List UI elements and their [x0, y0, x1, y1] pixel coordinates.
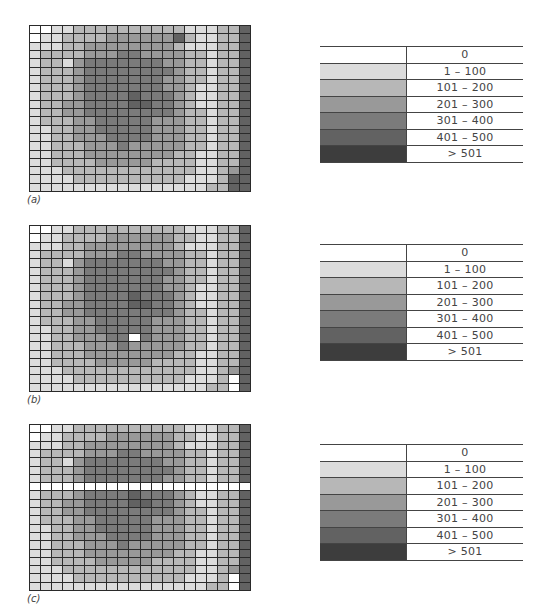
grid-cell	[96, 51, 106, 58]
grid-cell	[85, 467, 95, 474]
grid-cell	[229, 243, 239, 250]
grid-cell	[229, 541, 239, 548]
grid-cell	[141, 243, 151, 250]
grid-cell	[30, 516, 40, 523]
grid-cell	[107, 59, 117, 66]
grid-cell	[185, 351, 195, 358]
grid-cell	[196, 458, 206, 465]
grid-cell	[229, 92, 239, 99]
grid-cell	[207, 301, 217, 308]
grid-cell	[163, 292, 173, 299]
grid-cell	[74, 375, 84, 382]
grid-cell	[174, 51, 184, 58]
grid-cell	[152, 525, 162, 532]
grid-cell	[52, 76, 62, 83]
grid-cell	[185, 550, 195, 557]
grid-cell	[74, 384, 84, 391]
grid-cell	[52, 433, 62, 440]
grid-cell	[129, 533, 139, 540]
grid-cell	[74, 334, 84, 341]
grid-cell	[240, 251, 250, 258]
grid-cell	[96, 342, 106, 349]
grid-cell	[207, 583, 217, 590]
legend-label: 1 – 100	[407, 63, 524, 80]
grid-cell	[174, 243, 184, 250]
grid-cell	[174, 259, 184, 266]
grid-cell	[41, 375, 51, 382]
grid-cell	[196, 351, 206, 358]
grid-cell	[63, 251, 73, 258]
grid-cell	[229, 475, 239, 482]
grid-cell	[52, 375, 62, 382]
grid-cell	[85, 558, 95, 565]
grid-cell	[185, 334, 195, 341]
grid-cell	[207, 351, 217, 358]
grid-cell	[152, 134, 162, 141]
grid-cell	[185, 525, 195, 532]
grid-cell	[41, 184, 51, 191]
grid-cell	[152, 425, 162, 432]
grid-cell	[229, 317, 239, 324]
grid-cell	[163, 167, 173, 174]
grid-cell	[240, 342, 250, 349]
grid-cell	[129, 184, 139, 191]
grid-cell	[63, 234, 73, 241]
grid-cell	[30, 226, 40, 233]
grid-cell	[218, 359, 228, 366]
grid-cell	[240, 142, 250, 149]
grid-cell	[240, 566, 250, 573]
grid-cell	[163, 483, 173, 490]
grid-cell	[174, 309, 184, 316]
grid-cell	[41, 268, 51, 275]
grid-cell	[41, 92, 51, 99]
grid-cell	[163, 26, 173, 33]
grid-cell	[63, 458, 73, 465]
grid-cell	[129, 450, 139, 457]
grid-cell	[196, 550, 206, 557]
grid-cell	[30, 276, 40, 283]
grid-cell	[41, 284, 51, 291]
grid-cell	[229, 167, 239, 174]
grid-cell	[185, 167, 195, 174]
grid-cell	[218, 342, 228, 349]
heatmap-grid-a	[29, 25, 251, 192]
grid-cell	[163, 334, 173, 341]
grid-cell	[107, 442, 117, 449]
grid-cell	[96, 425, 106, 432]
legend-row: 201 – 300	[320, 294, 523, 311]
grid-cell	[196, 326, 206, 333]
grid-cell	[196, 26, 206, 33]
grid-cell	[174, 525, 184, 532]
grid-cell	[85, 334, 95, 341]
legend-swatch	[320, 494, 407, 511]
grid-cell	[229, 550, 239, 557]
grid-cell	[141, 126, 151, 133]
grid-cell	[141, 317, 151, 324]
grid-cell	[196, 541, 206, 548]
grid-cell	[63, 92, 73, 99]
grid-cell	[229, 508, 239, 515]
grid-cell	[129, 101, 139, 108]
grid-cell	[185, 243, 195, 250]
grid-cell	[229, 450, 239, 457]
legend-label: > 501	[407, 146, 524, 163]
grid-cell	[218, 491, 228, 498]
grid-cell	[141, 467, 151, 474]
grid-cell	[196, 76, 206, 83]
grid-cell	[118, 175, 128, 182]
grid-cell	[229, 309, 239, 316]
grid-cell	[41, 367, 51, 374]
grid-cell	[96, 326, 106, 333]
grid-cell	[74, 26, 84, 33]
grid-cell	[41, 566, 51, 573]
grid-cell	[185, 142, 195, 149]
grid-cell	[74, 450, 84, 457]
grid-cell	[207, 550, 217, 557]
grid-cell	[163, 276, 173, 283]
grid-cell	[41, 326, 51, 333]
grid-cell	[229, 500, 239, 507]
grid-cell	[107, 292, 117, 299]
grid-cell	[218, 284, 228, 291]
grid-cell	[174, 334, 184, 341]
grid-cell	[129, 500, 139, 507]
